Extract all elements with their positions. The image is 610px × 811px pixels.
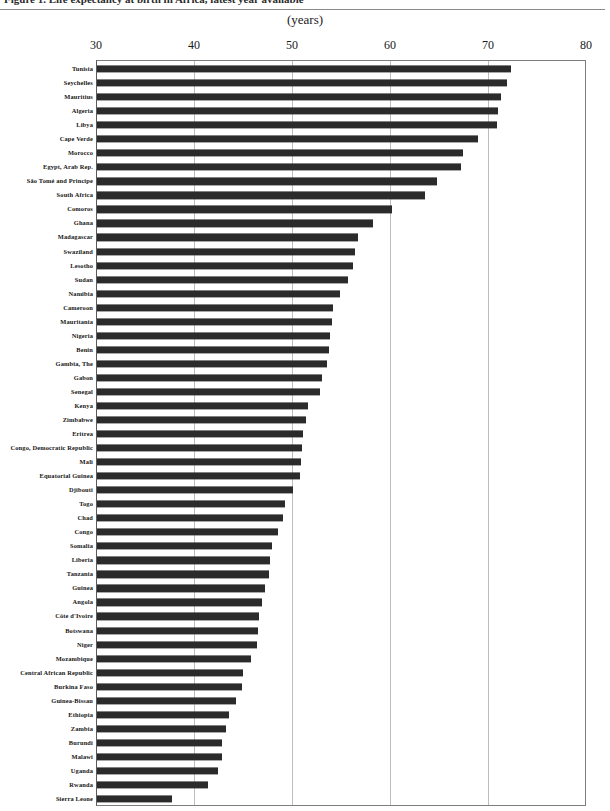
bar[interactable] — [97, 93, 501, 100]
bar[interactable] — [97, 669, 243, 676]
bar[interactable] — [97, 767, 218, 774]
bar[interactable] — [97, 374, 322, 381]
bar-row[interactable]: Somalia — [0, 539, 610, 553]
bar-row[interactable]: Djibouti — [0, 483, 610, 497]
bar-row[interactable]: Malawi — [0, 750, 610, 764]
bar[interactable] — [97, 220, 373, 227]
bar-row[interactable]: São Tomé and Principe — [0, 174, 610, 188]
bar[interactable] — [97, 206, 392, 213]
bar[interactable] — [97, 571, 269, 578]
bar-row[interactable]: Burkina Faso — [0, 680, 610, 694]
bar[interactable] — [97, 501, 285, 508]
bar[interactable] — [97, 515, 283, 522]
bar[interactable] — [97, 178, 437, 185]
bar-row[interactable]: Zimbabwe — [0, 413, 610, 427]
bar-row[interactable]: Congo — [0, 525, 610, 539]
bar-row[interactable]: Zambia — [0, 722, 610, 736]
bar[interactable] — [97, 122, 497, 129]
bar-row[interactable]: Libya — [0, 118, 610, 132]
bar-row[interactable]: Eritrea — [0, 427, 610, 441]
bar[interactable] — [97, 388, 320, 395]
bar-row[interactable]: Guinea-Bissau — [0, 694, 610, 708]
bar-row[interactable]: Nigeria — [0, 329, 610, 343]
bar-row[interactable]: Sierra Leone — [0, 792, 610, 806]
bar-row[interactable]: Tunisia — [0, 62, 610, 76]
bar-row[interactable]: Seychelles — [0, 76, 610, 90]
bar[interactable] — [97, 248, 355, 255]
bar[interactable] — [97, 444, 302, 451]
bar[interactable] — [97, 360, 327, 367]
bar-row[interactable]: Swaziland — [0, 244, 610, 258]
bar-row[interactable]: Egypt, Arab Rep. — [0, 160, 610, 174]
bar[interactable] — [97, 150, 463, 157]
bar-row[interactable]: Madagascar — [0, 230, 610, 244]
bar-row[interactable]: Morocco — [0, 146, 610, 160]
bar-row[interactable]: Lesotho — [0, 259, 610, 273]
bar[interactable] — [97, 557, 270, 564]
bar-row[interactable]: Ethiopia — [0, 708, 610, 722]
bar[interactable] — [97, 402, 308, 409]
bar[interactable] — [97, 627, 258, 634]
bar[interactable] — [97, 473, 300, 480]
bar[interactable] — [97, 683, 242, 690]
bar[interactable] — [97, 290, 340, 297]
bar-row[interactable]: Togo — [0, 497, 610, 511]
bar[interactable] — [97, 487, 293, 494]
bar-row[interactable]: Angola — [0, 595, 610, 609]
bar-row[interactable]: Mozambique — [0, 652, 610, 666]
bar[interactable] — [97, 585, 265, 592]
bar[interactable] — [97, 136, 478, 143]
bar[interactable] — [97, 430, 303, 437]
bar[interactable] — [97, 529, 278, 536]
bar-row[interactable]: Kenya — [0, 399, 610, 413]
bar-row[interactable]: Chad — [0, 511, 610, 525]
bar-row[interactable]: Benin — [0, 343, 610, 357]
bar-row[interactable]: Cameroon — [0, 301, 610, 315]
bar[interactable] — [97, 697, 236, 704]
bar[interactable] — [97, 613, 259, 620]
bar-row[interactable]: Comoros — [0, 202, 610, 216]
bar-row[interactable]: Burundi — [0, 736, 610, 750]
bar-row[interactable]: Botswana — [0, 624, 610, 638]
bar-row[interactable]: Sudan — [0, 273, 610, 287]
bar[interactable] — [97, 795, 172, 802]
bar[interactable] — [97, 234, 358, 241]
bar[interactable] — [97, 332, 330, 339]
bar[interactable] — [97, 753, 222, 760]
bar[interactable] — [97, 543, 272, 550]
bar-row[interactable]: Mauritania — [0, 315, 610, 329]
bar[interactable] — [97, 346, 329, 353]
bar[interactable] — [97, 276, 348, 283]
bar-row[interactable]: Congo, Democratic Republic — [0, 441, 610, 455]
bar-row[interactable]: Rwanda — [0, 778, 610, 792]
bar[interactable] — [97, 318, 332, 325]
bar-row[interactable]: Tanzania — [0, 567, 610, 581]
bar-row[interactable]: Equatorial Guinea — [0, 469, 610, 483]
bar-row[interactable]: Namibia — [0, 287, 610, 301]
bar[interactable] — [97, 711, 229, 718]
bar-row[interactable]: Liberia — [0, 553, 610, 567]
bar-row[interactable]: Mali — [0, 455, 610, 469]
bar[interactable] — [97, 192, 425, 199]
bar[interactable] — [97, 65, 511, 72]
bar-row[interactable]: Cape Verde — [0, 132, 610, 146]
bar-row[interactable]: Uganda — [0, 764, 610, 778]
bar-row[interactable]: Senegal — [0, 385, 610, 399]
bar[interactable] — [97, 458, 301, 465]
bar[interactable] — [97, 79, 507, 86]
bar[interactable] — [97, 599, 262, 606]
bar[interactable] — [97, 781, 208, 788]
bar-row[interactable]: Central African Republic — [0, 666, 610, 680]
bar[interactable] — [97, 304, 333, 311]
bar-row[interactable]: Niger — [0, 638, 610, 652]
bar-row[interactable]: Côte d'Ivoire — [0, 609, 610, 623]
bar-row[interactable]: Gambia, The — [0, 357, 610, 371]
bar[interactable] — [97, 164, 461, 171]
bar[interactable] — [97, 108, 498, 115]
bar-row[interactable]: Algeria — [0, 104, 610, 118]
bar[interactable] — [97, 262, 353, 269]
bar-row[interactable]: Ghana — [0, 216, 610, 230]
bar-row[interactable]: South Africa — [0, 188, 610, 202]
bar-row[interactable]: Guinea — [0, 581, 610, 595]
bar[interactable] — [97, 725, 226, 732]
